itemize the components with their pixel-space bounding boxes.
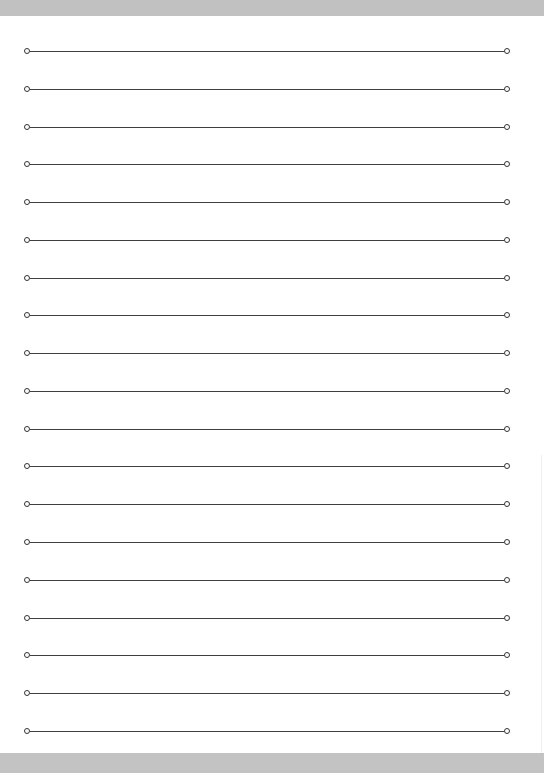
circle-endpoint-icon bbox=[24, 539, 30, 545]
ruled-line bbox=[24, 161, 510, 168]
circle-endpoint-icon bbox=[24, 652, 30, 658]
circle-endpoint-icon bbox=[504, 237, 510, 243]
top-scan-border bbox=[0, 0, 544, 16]
bottom-scan-border bbox=[0, 753, 544, 773]
circle-endpoint-icon bbox=[504, 539, 510, 545]
circle-endpoint-icon bbox=[24, 463, 30, 469]
ruled-line bbox=[24, 350, 510, 357]
ruled-line bbox=[24, 728, 510, 735]
circle-endpoint-icon bbox=[24, 237, 30, 243]
line-stroke bbox=[30, 655, 504, 656]
line-stroke bbox=[30, 731, 504, 732]
circle-endpoint-icon bbox=[504, 161, 510, 167]
circle-endpoint-icon bbox=[504, 275, 510, 281]
ruled-line bbox=[24, 199, 510, 206]
line-stroke bbox=[30, 693, 504, 694]
line-stroke bbox=[30, 89, 504, 90]
line-stroke bbox=[30, 315, 504, 316]
circle-endpoint-icon bbox=[504, 426, 510, 432]
circle-endpoint-icon bbox=[504, 350, 510, 356]
circle-endpoint-icon bbox=[504, 615, 510, 621]
line-stroke bbox=[30, 127, 504, 128]
circle-endpoint-icon bbox=[24, 350, 30, 356]
circle-endpoint-icon bbox=[504, 86, 510, 92]
ruled-line bbox=[24, 652, 510, 659]
circle-endpoint-icon bbox=[24, 124, 30, 130]
circle-endpoint-icon bbox=[504, 388, 510, 394]
ruled-line bbox=[24, 690, 510, 697]
circle-endpoint-icon bbox=[504, 652, 510, 658]
line-stroke bbox=[30, 618, 504, 619]
ruled-line bbox=[24, 275, 510, 282]
lined-paper-page bbox=[0, 0, 544, 773]
circle-endpoint-icon bbox=[504, 463, 510, 469]
circle-endpoint-icon bbox=[24, 86, 30, 92]
ruled-line bbox=[24, 615, 510, 622]
line-stroke bbox=[30, 202, 504, 203]
page-edge bbox=[541, 455, 542, 753]
circle-endpoint-icon bbox=[504, 577, 510, 583]
circle-endpoint-icon bbox=[24, 275, 30, 281]
line-stroke bbox=[30, 580, 504, 581]
line-stroke bbox=[30, 278, 504, 279]
ruled-line bbox=[24, 426, 510, 433]
ruled-line bbox=[24, 539, 510, 546]
ruled-line bbox=[24, 463, 510, 470]
circle-endpoint-icon bbox=[504, 48, 510, 54]
circle-endpoint-icon bbox=[24, 161, 30, 167]
circle-endpoint-icon bbox=[24, 312, 30, 318]
line-stroke bbox=[30, 429, 504, 430]
line-stroke bbox=[30, 353, 504, 354]
circle-endpoint-icon bbox=[24, 615, 30, 621]
circle-endpoint-icon bbox=[504, 124, 510, 130]
ruled-line bbox=[24, 124, 510, 131]
circle-endpoint-icon bbox=[24, 199, 30, 205]
ruled-line bbox=[24, 237, 510, 244]
line-stroke bbox=[30, 466, 504, 467]
circle-endpoint-icon bbox=[504, 501, 510, 507]
ruled-line bbox=[24, 577, 510, 584]
circle-endpoint-icon bbox=[24, 48, 30, 54]
circle-endpoint-icon bbox=[24, 388, 30, 394]
line-stroke bbox=[30, 240, 504, 241]
line-stroke bbox=[30, 391, 504, 392]
ruled-line bbox=[24, 312, 510, 319]
line-stroke bbox=[30, 504, 504, 505]
line-stroke bbox=[30, 164, 504, 165]
circle-endpoint-icon bbox=[504, 312, 510, 318]
line-stroke bbox=[30, 542, 504, 543]
circle-endpoint-icon bbox=[24, 577, 30, 583]
ruled-line bbox=[24, 48, 510, 55]
circle-endpoint-icon bbox=[504, 728, 510, 734]
line-stroke bbox=[30, 51, 504, 52]
circle-endpoint-icon bbox=[504, 199, 510, 205]
circle-endpoint-icon bbox=[24, 501, 30, 507]
ruled-line bbox=[24, 501, 510, 508]
ruled-line bbox=[24, 86, 510, 93]
circle-endpoint-icon bbox=[504, 690, 510, 696]
circle-endpoint-icon bbox=[24, 426, 30, 432]
circle-endpoint-icon bbox=[24, 690, 30, 696]
ruled-line bbox=[24, 388, 510, 395]
circle-endpoint-icon bbox=[24, 728, 30, 734]
